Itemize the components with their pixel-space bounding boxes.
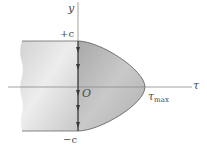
origin-label: O: [82, 88, 91, 99]
parabolic-stress-distribution: [78, 41, 145, 131]
diagram-canvas: [0, 0, 207, 147]
cross-section-block: [20, 41, 78, 131]
bottom-label: −c: [63, 135, 77, 145]
shear-stress-diagram: y +c −c O τ τmax: [0, 0, 207, 147]
tau-max-label: τmax: [148, 91, 169, 104]
tau-axis-label: τ: [193, 80, 199, 91]
y-axis-label: y: [68, 3, 74, 14]
top-label: +c: [60, 29, 74, 39]
tau-max-subscript: max: [154, 96, 169, 104]
